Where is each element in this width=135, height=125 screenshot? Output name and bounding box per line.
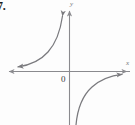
lower-right-branch (76, 74, 122, 125)
y-axis-label: y (70, 0, 73, 8)
axes-group (9, 11, 130, 125)
problem-number: 7. (0, 0, 6, 13)
upper-left-branch (18, 16, 63, 67)
hyperbola-figure: 7. y x 0 (0, 0, 135, 125)
origin-label: 0 (61, 74, 66, 84)
coordinate-plane-graphic (0, 0, 135, 125)
x-axis-label: x (126, 59, 129, 67)
